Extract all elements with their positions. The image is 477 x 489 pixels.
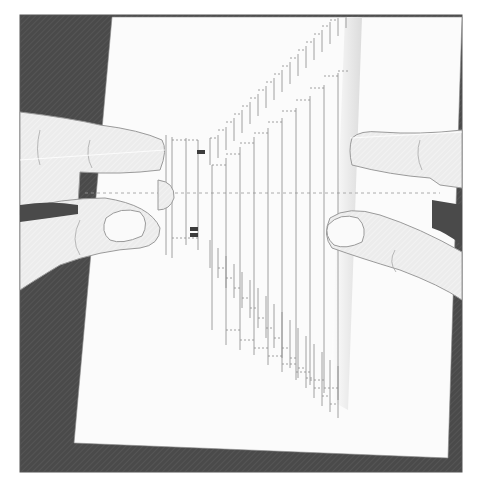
illustration-frame bbox=[0, 0, 477, 489]
popup-card-illustration bbox=[0, 0, 477, 489]
tab-mark-lower-1 bbox=[190, 227, 198, 231]
tab-mark-upper bbox=[197, 150, 205, 154]
left-thumbnail bbox=[104, 210, 146, 242]
tab-mark-lower-2 bbox=[190, 233, 198, 237]
right-thumbnail bbox=[327, 216, 364, 247]
